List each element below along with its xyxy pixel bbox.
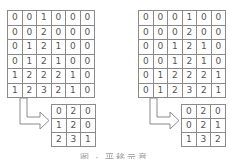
grid-cell: 2	[66, 119, 81, 133]
grid-cell: 2	[66, 105, 81, 119]
grid-cell: 0	[153, 54, 168, 69]
grid-cell: 2	[211, 133, 226, 147]
grid-cell: 0	[22, 11, 37, 26]
grid-row: 000200	[139, 25, 226, 40]
grid-cell: 0	[80, 54, 95, 69]
grid-cell: 1	[153, 83, 168, 98]
grid-cell: 1	[51, 54, 66, 69]
grid-cell: 2	[182, 54, 197, 69]
grid-cell: 0	[211, 11, 226, 26]
left-arrow-icon	[18, 98, 52, 132]
grid-cell: 2	[196, 119, 211, 133]
grid-cell: 2	[196, 105, 211, 119]
grid-cell: 0	[80, 40, 95, 55]
grid-cell: 0	[8, 11, 23, 26]
grid-cell: 0	[52, 105, 67, 119]
right-input-grid: 000100000200001210001210012221012321	[138, 10, 226, 98]
right-arrow-icon	[148, 98, 182, 132]
grid-cell: 0	[139, 25, 154, 40]
grid-cell: 0	[80, 25, 95, 40]
grid-row: 012221	[139, 69, 226, 84]
grid-cell: 0	[8, 54, 23, 69]
grid-row: 001000	[8, 11, 95, 26]
grid-cell: 1	[197, 40, 212, 55]
grid-row: 120	[52, 119, 96, 133]
grid-cell: 0	[197, 11, 212, 26]
grid-cell: 0	[139, 40, 154, 55]
grid-cell: 2	[37, 54, 52, 69]
grid-cell: 2	[197, 69, 212, 84]
grid-cell: 0	[81, 119, 96, 133]
grid-cell: 2	[51, 83, 66, 98]
grid-cell: 0	[66, 54, 81, 69]
grid-cell: 1	[168, 54, 183, 69]
grid-cell: 0	[80, 83, 95, 98]
grid-row: 132	[182, 133, 226, 147]
left-output-grid: 020120231	[51, 104, 96, 147]
grid-cell: 0	[8, 25, 23, 40]
grid-row: 012321	[139, 83, 226, 98]
grid-row: 001210	[139, 54, 226, 69]
grid-row: 001210	[139, 40, 226, 55]
grid-cell: 0	[139, 69, 154, 84]
grid-cell: 1	[22, 54, 37, 69]
grid-cell: 3	[37, 83, 52, 98]
grid-cell: 1	[211, 69, 226, 84]
grid-cell: 2	[51, 69, 66, 84]
grid-cell: 2	[168, 83, 183, 98]
grid-row: 021	[182, 119, 226, 133]
grid-cell: 2	[52, 133, 67, 147]
grid-cell: 1	[211, 83, 226, 98]
grid-row: 012100	[8, 54, 95, 69]
grid-cell: 0	[22, 25, 37, 40]
grid-cell: 1	[51, 40, 66, 55]
grid-cell: 2	[37, 25, 52, 40]
grid-cell: 3	[182, 83, 197, 98]
grid-cell: 0	[66, 11, 81, 26]
grid-cell: 0	[8, 40, 23, 55]
grid-cell: 2	[22, 83, 37, 98]
grid-cell: 0	[66, 40, 81, 55]
grid-cell: 0	[51, 11, 66, 26]
grid-cell: 1	[211, 119, 226, 133]
left-input-grid: 001000002000012100012100122210123210	[7, 10, 95, 98]
grid-cell: 0	[153, 25, 168, 40]
grid-cell: 2	[197, 83, 212, 98]
grid-cell: 1	[168, 40, 183, 55]
grid-row: 020	[52, 105, 96, 119]
grid-cell: 0	[80, 69, 95, 84]
grid-cell: 1	[52, 119, 67, 133]
grid-cell: 0	[182, 105, 197, 119]
grid-cell: 1	[8, 83, 23, 98]
grid-cell: 3	[66, 133, 81, 147]
grid-cell: 1	[37, 11, 52, 26]
grid-cell: 0	[168, 11, 183, 26]
grid-cell: 0	[139, 11, 154, 26]
grid-cell: 0	[153, 11, 168, 26]
grid-cell: 0	[211, 40, 226, 55]
grid-row: 231	[52, 133, 96, 147]
grid-cell: 2	[22, 69, 37, 84]
grid-cell: 0	[66, 25, 81, 40]
grid-row: 123210	[8, 83, 95, 98]
grid-cell: 0	[153, 40, 168, 55]
grid-cell: 0	[211, 54, 226, 69]
grid-cell: 1	[66, 69, 81, 84]
grid-cell: 1	[197, 54, 212, 69]
grid-cell: 2	[182, 25, 197, 40]
grid-row: 012100	[8, 40, 95, 55]
grid-cell: 2	[37, 69, 52, 84]
figure-caption: 图 · 平移示意	[0, 151, 229, 159]
grid-cell: 1	[182, 11, 197, 26]
grid-cell: 0	[182, 119, 197, 133]
grid-cell: 0	[139, 54, 154, 69]
grid-row: 002000	[8, 25, 95, 40]
grid-cell: 2	[37, 40, 52, 55]
grid-cell: 0	[81, 105, 96, 119]
grid-cell: 3	[196, 133, 211, 147]
grid-cell: 0	[197, 25, 212, 40]
grid-cell: 0	[168, 25, 183, 40]
grid-cell: 2	[182, 40, 197, 55]
grid-cell: 0	[51, 25, 66, 40]
grid-cell: 0	[80, 11, 95, 26]
